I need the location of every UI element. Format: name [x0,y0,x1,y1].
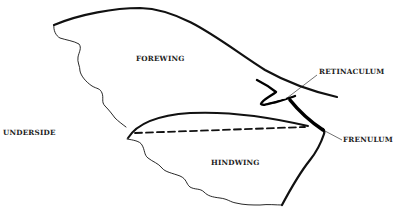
underside-label: UNDERSIDE [3,128,56,137]
forewing-label: FOREWING [136,54,185,63]
retinaculum-leader-line [287,75,317,98]
hindwing-dashed-vein [135,127,305,133]
hindwing-inner-margin [282,129,324,205]
hindwing-outer-margin [127,139,282,205]
forewing-outer-margin [54,25,126,127]
wing-diagram [0,0,405,212]
hindwing-leading-edge [128,113,308,138]
hindwing-label: HINDWING [211,158,260,167]
frenulum-leader-line [325,131,342,140]
retinaculum-label: RETINACULUM [319,67,384,76]
forewing-leading-edge [54,8,337,97]
frenulum-label: FRENULUM [343,135,393,144]
